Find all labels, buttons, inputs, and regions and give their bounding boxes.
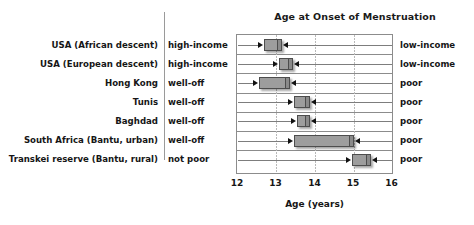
range-bar-1 [279, 58, 293, 70]
arrow-right-icon [288, 138, 293, 144]
right-status-label-6: poor [400, 150, 474, 168]
left-status-label-0: high-income [168, 36, 232, 54]
connector-line [238, 160, 348, 161]
connector-line [288, 45, 392, 46]
right-status-label-1: low-income [400, 55, 474, 73]
xtick-label-12: 12 [231, 178, 244, 188]
x-axis-title: Age (years) [236, 199, 393, 209]
left-status-label-5: well-off [168, 131, 232, 149]
right-status-label-4: poor [400, 112, 474, 130]
chart-row: South Africa (Bantu, urban) well-off poo… [0, 131, 474, 149]
chart-row: USA (African descent) high-income low-in… [0, 36, 474, 54]
left-status-label-4: well-off [168, 112, 232, 130]
xtick-label-14: 14 [308, 178, 321, 188]
right-status-label-3: poor [400, 93, 474, 111]
category-label-6: Transkei reserve (Bantu, rural) [0, 150, 158, 168]
range-bar-5 [294, 135, 354, 147]
range-bar-3 [294, 96, 310, 108]
connector-line [316, 102, 392, 103]
arrow-right-icon [291, 118, 296, 124]
left-status-label-2: well-off [168, 74, 232, 92]
chart-title: Age at Onset of Menstruation [236, 11, 474, 22]
chart-row: Hong Kong well-off poor [0, 74, 474, 92]
arrow-left-icon [311, 99, 316, 105]
bar-cap [305, 97, 309, 107]
arrow-right-icon [258, 42, 263, 48]
category-label-3: Tunis [0, 93, 158, 111]
bar-cap [285, 78, 289, 88]
connector-line [238, 121, 293, 122]
chart-row: Transkei reserve (Bantu, rural) not poor… [0, 150, 474, 168]
bar-cap [349, 136, 353, 146]
bar-cap [288, 59, 292, 69]
xtick-label-15: 15 [347, 178, 360, 188]
xtick-label-16: 16 [385, 178, 398, 188]
right-status-label-0: low-income [400, 36, 474, 54]
connector-line [296, 83, 392, 84]
bar-cap [366, 155, 370, 165]
arrow-left-icon [291, 80, 296, 86]
connector-line [299, 64, 392, 65]
range-bar-2 [259, 77, 290, 89]
xtick-label-13: 13 [269, 178, 282, 188]
left-status-label-1: high-income [168, 55, 232, 73]
arrow-left-icon [311, 118, 316, 124]
arrow-right-icon [346, 157, 351, 163]
connector-line [238, 45, 260, 46]
right-status-label-2: poor [400, 74, 474, 92]
arrow-right-icon [253, 80, 258, 86]
bar-cap [277, 40, 281, 50]
arrow-right-icon [273, 61, 278, 67]
connector-line [238, 64, 275, 65]
chart-row: USA (European descent) high-income low-i… [0, 55, 474, 73]
right-status-label-5: poor [400, 131, 474, 149]
category-label-4: Baghdad [0, 112, 158, 130]
connector-line [377, 160, 392, 161]
arrow-left-icon [372, 157, 377, 163]
connector-line [360, 141, 392, 142]
left-status-label-6: not poor [168, 150, 232, 168]
connector-line [238, 141, 290, 142]
chart-figure: Age at Onset of Menstruation USA (Africa… [0, 0, 474, 225]
arrow-left-icon [355, 138, 360, 144]
range-bar-0 [264, 39, 282, 51]
category-label-1: USA (European descent) [0, 55, 158, 73]
bar-cap [305, 116, 309, 126]
range-bar-6 [352, 154, 371, 166]
left-status-label-3: well-off [168, 93, 232, 111]
connector-line [316, 121, 392, 122]
category-label-0: USA (African descent) [0, 36, 158, 54]
arrow-left-icon [283, 42, 288, 48]
category-label-2: Hong Kong [0, 74, 158, 92]
category-label-5: South Africa (Bantu, urban) [0, 131, 158, 149]
connector-line [238, 102, 290, 103]
chart-row: Baghdad well-off poor [0, 112, 474, 130]
arrow-left-icon [294, 61, 299, 67]
range-bar-4 [297, 115, 310, 127]
arrow-right-icon [288, 99, 293, 105]
chart-row: Tunis well-off poor [0, 93, 474, 111]
